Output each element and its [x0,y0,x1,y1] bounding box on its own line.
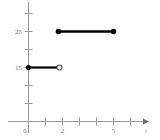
x-tick-label-0: 0 [23,127,27,135]
chart-plot-area: 25 15 0 2 5 t [0,0,160,140]
marker-closed-high-start [56,29,62,35]
step-function-chart: 25 15 0 2 5 t [0,0,160,140]
y-tick-label-25: 25 [15,28,23,36]
marker-open-low-end [57,65,62,70]
y-tick-label-15: 15 [15,64,23,72]
x-axis-label: t [145,127,148,135]
marker-closed-high-end [111,29,117,35]
x-tick-label-5: 5 [112,127,116,135]
marker-closed-low-start [26,65,31,70]
x-tick-label-2: 2 [61,127,65,135]
x-axis-arrow-icon [143,119,149,125]
